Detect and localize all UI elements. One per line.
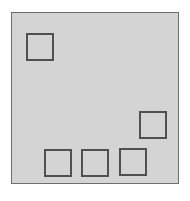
square-right-middle xyxy=(139,111,167,139)
square-bottom-1 xyxy=(44,149,72,177)
square-top-left xyxy=(26,33,54,61)
square-bottom-3 xyxy=(119,148,147,176)
square-bottom-2 xyxy=(81,149,109,177)
